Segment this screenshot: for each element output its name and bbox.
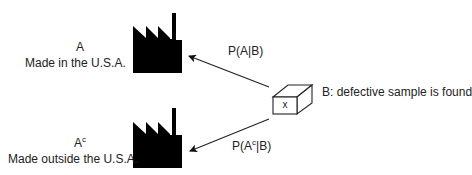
event-ac-sup: c <box>82 135 86 144</box>
factory-icon <box>133 13 182 73</box>
factory-icon <box>133 108 182 168</box>
prob-a-suffix: |B) <box>248 44 263 58</box>
prob-ac-suffix: |B) <box>256 139 271 153</box>
prob-ac-prefix: P(A <box>232 139 252 153</box>
event-ac-base: A <box>74 136 82 150</box>
event-a-description: Made in the U.S.A. <box>25 56 126 70</box>
arrow-icon <box>189 56 269 87</box>
event-ac-label: Ac <box>60 136 100 150</box>
event-a-label: A <box>60 40 100 54</box>
event-a-symbol: A <box>76 40 84 54</box>
event-b-description: B: defective sample is found <box>322 85 472 99</box>
prob-ac-given-b-label: P(Ac|B) <box>232 139 271 153</box>
prob-a-given-b-label: P(A|B) <box>228 44 263 58</box>
event-ac-description: Made outside the U.S.A. <box>8 152 138 166</box>
box-x-label: x <box>279 98 291 112</box>
prob-a-prefix: P(A <box>228 44 248 58</box>
